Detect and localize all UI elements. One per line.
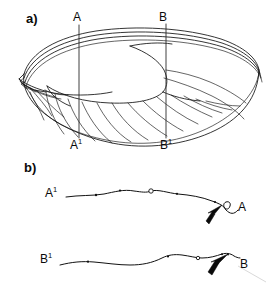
profile-label-B1-left: B1 (40, 252, 52, 266)
profile-label-A1-left-sup: 1 (53, 185, 57, 194)
panel-a-label: a) (26, 11, 38, 26)
profile-trace-A (66, 189, 238, 224)
profile-label-B1-left-text: B (40, 252, 48, 266)
profile-label-A-right: A (238, 200, 246, 214)
section-label-A-top: A (73, 10, 81, 24)
section-label-A-top-text: A (73, 10, 81, 24)
profile-label-A-right-text: A (238, 200, 246, 214)
profile-label-B1-left-sup: 1 (48, 251, 52, 260)
profile-label-A1-left: A1 (45, 186, 57, 200)
profile-label-A1-left-text: A (45, 186, 53, 200)
shell-outline-group (19, 28, 262, 146)
section-label-B-top-text: B (159, 10, 167, 24)
shell-radial-ribs (46, 92, 240, 143)
section-label-B1-bottom-text: B (160, 138, 168, 152)
figure-plate: a) b) A B A1 B1 A1 A B1 B (0, 0, 272, 285)
section-label-B1-bottom-sup: 1 (168, 137, 172, 146)
section-label-B1-bottom: B1 (160, 138, 172, 152)
panel-b-label: b) (24, 160, 36, 175)
profile-label-B-right: B (240, 257, 248, 271)
section-label-A1-bottom-text: A (70, 138, 78, 152)
profile-label-B-right-text: B (240, 257, 248, 271)
profile-trace-B (60, 253, 266, 282)
section-label-A1-bottom-sup: 1 (78, 137, 82, 146)
section-label-B-top: B (159, 10, 167, 24)
panel-a-drawing (0, 0, 272, 285)
section-label-A1-bottom: A1 (70, 138, 82, 152)
